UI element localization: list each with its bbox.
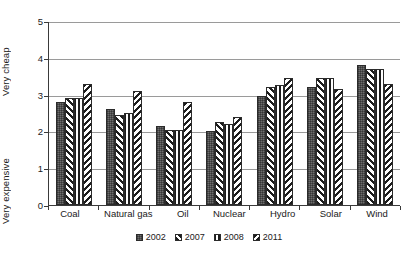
bar-2002-natural-gas [106, 109, 115, 205]
legend-item-2007[interactable]: 2007 [175, 232, 205, 242]
legend-item-2008[interactable]: 2008 [214, 232, 244, 242]
x-tick-label: Wind [366, 208, 388, 219]
bar-2011-oil [183, 102, 192, 205]
y-tick-label: 2 [30, 127, 43, 137]
bar-group [357, 22, 393, 205]
y-axis-label-top: Very cheap [0, 14, 11, 96]
bar-2002-solar [307, 87, 316, 205]
legend-swatch-icon [136, 234, 143, 241]
legend-item-2002[interactable]: 2002 [136, 232, 166, 242]
bar-2008-natural-gas [124, 113, 133, 205]
bar-2008-wind [375, 69, 384, 205]
bar-2007-coal [65, 98, 74, 205]
x-tick-label: Nuclear [213, 208, 246, 219]
bar-2011-hydro [284, 78, 293, 205]
x-axis-labels: CoalNatural gasOilNuclearHydroSolarWind [48, 208, 400, 224]
bar-2002-hydro [257, 96, 266, 205]
bar-2002-coal [56, 102, 65, 205]
bar-2011-wind [384, 84, 393, 205]
x-tick-label: Solar [320, 208, 342, 219]
y-tick-label: 3 [30, 91, 43, 101]
x-tick-mark [400, 206, 401, 210]
y-axis-label-bottom: Very expensive [0, 128, 11, 224]
y-tick-label: 4 [30, 54, 43, 64]
bar-group [56, 22, 92, 205]
x-tick-label: Oil [177, 208, 189, 219]
legend-swatch-icon [253, 234, 260, 241]
bar-2002-wind [357, 65, 366, 205]
bar-2007-hydro [266, 87, 275, 205]
y-tick-label: 0 [30, 201, 43, 211]
bar-2007-natural-gas [115, 115, 124, 205]
x-tick-label: Hydro [270, 208, 295, 219]
bar-groups [49, 22, 400, 205]
bar-2011-solar [334, 89, 343, 205]
bar-chart: Very cheap Very expensive 012345 CoalNat… [0, 0, 418, 258]
bar-group [156, 22, 192, 205]
legend-label: 2011 [263, 232, 282, 242]
bar-2007-wind [366, 69, 375, 205]
plot-area [48, 22, 400, 206]
bar-2008-solar [325, 78, 334, 205]
bar-group [307, 22, 343, 205]
bar-2002-nuclear [206, 131, 215, 205]
bar-group [206, 22, 242, 205]
bar-2011-coal [83, 84, 92, 205]
y-tick-label: 5 [30, 17, 43, 27]
legend-label: 2007 [185, 232, 205, 242]
bar-2007-solar [316, 78, 325, 205]
bar-2008-nuclear [224, 124, 233, 205]
legend-label: 2002 [146, 232, 166, 242]
y-tick-label: 1 [30, 164, 43, 174]
x-tick-label: Coal [60, 208, 80, 219]
bar-2007-oil [165, 130, 174, 205]
bar-2008-hydro [275, 85, 284, 205]
bar-group [257, 22, 293, 205]
bar-2011-natural-gas [133, 91, 142, 205]
chart-legend: 2002200720082011 [0, 232, 418, 242]
bar-2002-oil [156, 126, 165, 205]
legend-item-2011[interactable]: 2011 [253, 232, 282, 242]
bar-2008-oil [174, 130, 183, 205]
bar-group [106, 22, 142, 205]
bar-2008-coal [74, 98, 83, 205]
legend-swatch-icon [175, 234, 182, 241]
legend-swatch-icon [214, 234, 221, 241]
legend-label: 2008 [224, 232, 244, 242]
x-tick-label: Natural gas [104, 208, 153, 219]
bar-2011-nuclear [233, 117, 242, 205]
bar-2007-nuclear [215, 122, 224, 205]
